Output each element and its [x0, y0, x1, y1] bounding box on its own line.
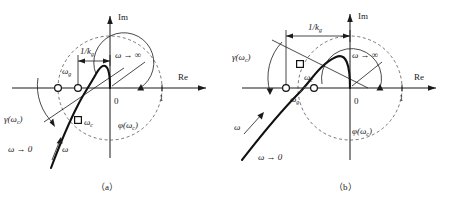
real-axis-label: Re [414, 72, 424, 82]
omega-direction-label: ω [62, 144, 68, 154]
unit-tick-label: 1 [399, 93, 404, 103]
omega-infinity-label: ω → ∞ [352, 50, 378, 60]
omega-zero-label: ω → 0 [258, 152, 283, 162]
omega-g-marker [283, 85, 290, 92]
phase-angle-label: φ(ωc) [118, 120, 138, 131]
phase-angle-label: φ(ωc) [352, 126, 372, 137]
phase-angle-arc-arrowhead [376, 84, 383, 91]
gain-margin-arrow-right [343, 34, 350, 39]
phase-margin-arc-arrowhead [267, 88, 274, 95]
unit-tick-label: 1 [159, 93, 164, 103]
omega-infinity-pointer-line [112, 62, 145, 86]
omega-zero-label: ω → 0 [8, 144, 33, 154]
critical-point-marker [55, 85, 62, 92]
omega-infinity-pointer-line [352, 62, 382, 86]
panel-a-svg: Im Re 0 1 1/kg ωg ωc ω → ∞ ω → 0 ω γ(ωc)… [0, 0, 227, 198]
origin-label: 0 [114, 96, 119, 106]
gain-margin-arrow-left [78, 59, 85, 64]
real-axis-arrowhead [198, 85, 206, 91]
real-axis-label: Re [178, 72, 188, 82]
origin-label: 0 [354, 96, 359, 106]
panel-b-svg: Im Re 0 1 1/kg ωg ωc ω → ∞ ω → 0 ω γ(ωc)… [228, 0, 455, 198]
omega-c-marker [297, 61, 304, 68]
imag-axis-label: Im [118, 12, 128, 22]
imag-axis-arrowhead [347, 14, 353, 22]
imag-axis-arrowhead [107, 16, 113, 24]
omega-c-label: ωc [84, 117, 93, 128]
gain-margin-label: 1/kg [308, 22, 322, 33]
omega-g-marker [75, 85, 82, 92]
real-axis-arrowhead [428, 85, 436, 91]
omega-c-marker [75, 117, 82, 124]
omega-direction-label: ω [234, 122, 240, 132]
omega-g-label: ωg [290, 94, 299, 105]
phase-margin-label: γ(ωc) [4, 114, 23, 125]
omega-infinity-label: ω → ∞ [115, 50, 141, 60]
phase-margin-label: γ(ωc) [232, 52, 251, 63]
panel-a-caption: （a） [96, 182, 118, 192]
nyquist-locus-curve [242, 56, 350, 160]
gain-margin-arrow-left [286, 34, 293, 39]
gain-margin-arrow-right [103, 59, 110, 64]
phase-margin-radial-line [44, 68, 124, 122]
nyquist-diagram-b: Im Re 0 1 1/kg ωg ωc ω → ∞ ω → 0 ω γ(ωc)… [228, 0, 455, 198]
omega-g-label: ωg [62, 66, 71, 77]
phase-angle-arc-arrowhead [137, 84, 144, 91]
phase-margin-arc [268, 42, 282, 92]
critical-point-marker [311, 85, 318, 92]
nyquist-diagram-a: Im Re 0 1 1/kg ωg ωc ω → ∞ ω → 0 ω γ(ωc)… [0, 0, 227, 198]
figure-container: Im Re 0 1 1/kg ωg ωc ω → ∞ ω → 0 ω γ(ωc)… [0, 0, 455, 198]
gain-margin-label: 1/kg [80, 46, 94, 57]
omega-c-label: ωc [304, 72, 313, 83]
imag-axis-label: Im [358, 11, 368, 21]
phase-angle-arc [94, 33, 154, 88]
panel-b-caption: （b） [334, 182, 357, 192]
